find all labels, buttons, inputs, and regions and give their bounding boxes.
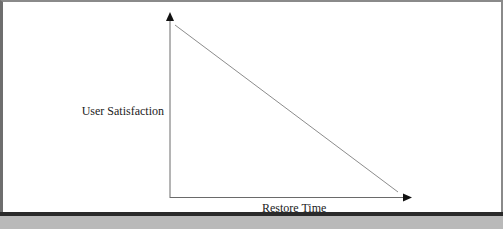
y-axis-arrowhead-icon <box>166 12 174 21</box>
trend-line <box>175 25 398 192</box>
x-axis-arrowhead-icon <box>403 194 412 202</box>
y-axis-label: User Satisfaction <box>82 104 164 119</box>
satisfaction-diagram <box>0 0 503 229</box>
bottom-strip <box>0 216 503 229</box>
